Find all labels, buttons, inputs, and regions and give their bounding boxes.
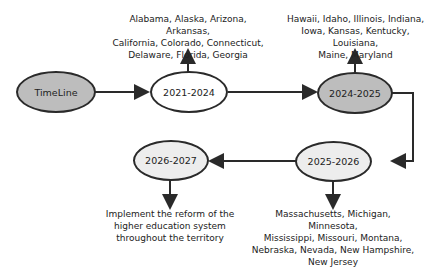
note-line: Maine, Maryland [278, 49, 433, 61]
note-line: Iowa, Kansas, Kentucky, Louisiana, [278, 25, 433, 49]
note-line: throughout the territory [100, 232, 240, 244]
node-2026-2027: 2026-2027 [133, 140, 209, 181]
node-label: 2026-2027 [145, 155, 197, 166]
note-2025-2026: Massachusetts, Michigan, Minnesota, Miss… [250, 208, 416, 268]
note-line: Nebraska, Nevada, New Hampshire, [250, 244, 416, 256]
node-2025-2026: 2025-2026 [295, 141, 372, 182]
note-2024-2025: Hawaii, Idaho, Illinois, Indiana, Iowa, … [278, 13, 433, 61]
note-line: New Jersey [250, 256, 416, 268]
note-line: Delaware, Florida, Georgia [108, 49, 268, 61]
node-2021-2024: 2021-2024 [150, 71, 228, 113]
node-label: 2024-2025 [329, 88, 381, 99]
note-2021-2024: Alabama, Alaska, Arizona, Arkansas, Cali… [108, 13, 268, 61]
note-line: Alabama, Alaska, Arizona, Arkansas, [108, 13, 268, 37]
note-line: higher education system [100, 220, 240, 232]
note-line: Mississippi, Missouri, Montana, [250, 232, 416, 244]
note-line: Massachusetts, Michigan, Minnesota, [250, 208, 416, 232]
node-timeline: TimeLine [16, 71, 96, 113]
node-label: TimeLine [34, 87, 77, 98]
note-2026-2027: Implement the reform of the higher educa… [100, 208, 240, 244]
node-2024-2025: 2024-2025 [317, 72, 393, 114]
node-label: 2025-2026 [308, 156, 360, 167]
note-line: Implement the reform of the [100, 208, 240, 220]
note-line: Hawaii, Idaho, Illinois, Indiana, [278, 13, 433, 25]
note-line: California, Colorado, Connecticut, [108, 37, 268, 49]
arrow-n2-to-n3 [392, 93, 413, 161]
node-label: 2021-2024 [163, 87, 215, 98]
